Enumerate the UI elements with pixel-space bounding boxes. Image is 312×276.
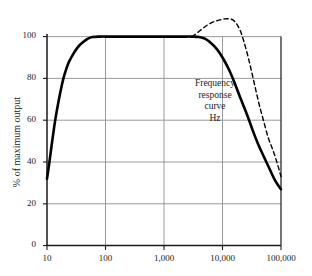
x-tick-label-1000: 1,000 — [137, 254, 191, 263]
annotation-line-3: curve — [186, 101, 244, 113]
curve-annotation: Frequency response curve Hz — [186, 78, 244, 124]
x-tick-label-10: 10 — [20, 254, 74, 263]
x-tick-label-10000: 10,000 — [196, 254, 250, 263]
y-tick-label-0: 0 — [10, 240, 36, 249]
x-tick-label-100000: 100,000 — [254, 254, 308, 263]
y-tick-label-100: 100 — [10, 31, 36, 40]
frequency-response-chart: 100 80 60 40 20 0 10 100 1,000 10,000 10… — [0, 0, 312, 276]
x-tick-label-100: 100 — [79, 254, 133, 263]
y-axis-title: % of maximum output — [12, 62, 22, 222]
plot-canvas — [0, 0, 312, 276]
annotation-line-1: Frequency — [186, 78, 244, 90]
vertical-gridlines — [106, 37, 223, 246]
annotation-line-2: response — [186, 90, 244, 102]
annotation-line-4: Hz — [186, 113, 244, 125]
